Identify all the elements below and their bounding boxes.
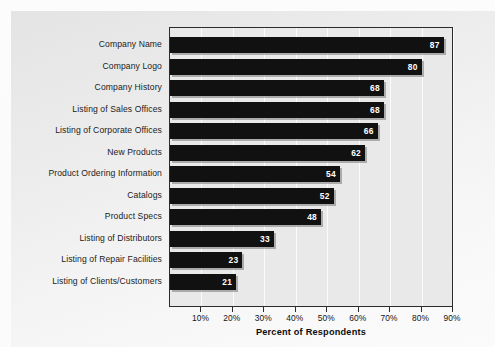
tick-label: 30% xyxy=(248,313,278,324)
plot-area: 878068686662545248332321 xyxy=(169,27,453,307)
bar[interactable]: 66 xyxy=(170,123,378,139)
bar[interactable]: 21 xyxy=(170,274,236,290)
bar-value-label: 68 xyxy=(370,105,380,114)
tick-label: 80% xyxy=(406,313,436,324)
bar-value-label: 23 xyxy=(229,256,239,265)
bar-value-label: 21 xyxy=(222,277,232,286)
bar-value-label: 52 xyxy=(320,191,330,200)
bar-value-label: 68 xyxy=(370,84,380,93)
bar[interactable]: 33 xyxy=(170,231,274,247)
bar[interactable]: 87 xyxy=(170,37,444,53)
tick-mark xyxy=(263,307,264,312)
tick-mark xyxy=(358,307,359,312)
category-label: Company Logo xyxy=(10,61,162,71)
tick-mark xyxy=(452,307,453,312)
bar-row: 21 xyxy=(170,274,454,290)
tick-label: 20% xyxy=(217,313,247,324)
bar-row: 68 xyxy=(170,102,454,118)
category-label: Catalogs xyxy=(10,190,162,200)
category-label: Listing of Corporate Offices xyxy=(10,125,162,135)
tick-label: 50% xyxy=(311,313,341,324)
tick-label: 10% xyxy=(185,313,215,324)
bar[interactable]: 68 xyxy=(170,80,384,96)
tick-mark xyxy=(389,307,390,312)
bar-row: 68 xyxy=(170,80,454,96)
bar-row: 48 xyxy=(170,209,454,225)
bar[interactable]: 68 xyxy=(170,102,384,118)
bar[interactable]: 48 xyxy=(170,209,321,225)
bar[interactable]: 54 xyxy=(170,166,340,182)
tick-mark xyxy=(326,307,327,312)
tick-label: 40% xyxy=(280,313,310,324)
bar-row: 87 xyxy=(170,37,454,53)
x-axis-tick-labels: 10%20%30%40%50%60%70%80%90% xyxy=(169,313,453,325)
category-label: Company History xyxy=(10,82,162,92)
tick-mark xyxy=(421,307,422,312)
category-label: New Products xyxy=(10,147,162,157)
chart-page: Company NameCompany LogoCompany HistoryL… xyxy=(0,0,495,347)
bar-value-label: 80 xyxy=(408,62,418,71)
bar-value-label: 48 xyxy=(307,213,317,222)
category-label: Listing of Distributors xyxy=(10,233,162,243)
bar[interactable]: 52 xyxy=(170,188,334,204)
bar-row: 66 xyxy=(170,123,454,139)
bar[interactable]: 62 xyxy=(170,145,365,161)
bar-value-label: 62 xyxy=(351,148,361,157)
x-axis-title: Percent of Respondents xyxy=(169,327,453,337)
category-label: Listing of Clients/Customers xyxy=(10,276,162,286)
category-label: Listing of Repair Facilities xyxy=(10,254,162,264)
bar-row: 54 xyxy=(170,166,454,182)
category-label: Company Name xyxy=(10,39,162,49)
bar-row: 62 xyxy=(170,145,454,161)
tick-mark xyxy=(295,307,296,312)
bar-value-label: 87 xyxy=(430,41,440,50)
bar-row: 23 xyxy=(170,252,454,268)
tick-label: 70% xyxy=(374,313,404,324)
bar[interactable]: 80 xyxy=(170,59,422,75)
category-label: Listing of Sales Offices xyxy=(10,104,162,114)
tick-mark xyxy=(200,307,201,312)
bar-row: 52 xyxy=(170,188,454,204)
tick-mark xyxy=(232,307,233,312)
bar[interactable]: 23 xyxy=(170,252,242,268)
bar-value-label: 66 xyxy=(364,127,374,136)
bar-row: 33 xyxy=(170,231,454,247)
tick-label: 90% xyxy=(437,313,467,324)
category-label: Product Specs xyxy=(10,211,162,221)
bar-value-label: 33 xyxy=(260,234,270,243)
bar-row: 80 xyxy=(170,59,454,75)
category-axis-labels: Company NameCompany LogoCompany HistoryL… xyxy=(10,31,166,295)
category-label: Product Ordering Information xyxy=(10,168,162,178)
bar-value-label: 54 xyxy=(326,170,336,179)
tick-label: 60% xyxy=(343,313,373,324)
